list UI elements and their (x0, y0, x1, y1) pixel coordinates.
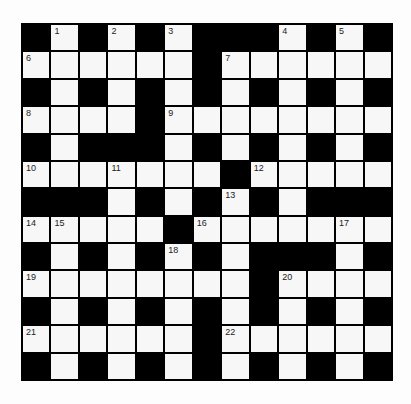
crossword-cell[interactable] (308, 107, 334, 132)
crossword-cell[interactable]: 21 (23, 326, 49, 351)
crossword-cell[interactable] (165, 189, 191, 214)
crossword-cell[interactable] (365, 162, 391, 187)
crossword-cell[interactable] (108, 107, 134, 132)
crossword-cell[interactable] (308, 52, 334, 77)
crossword-cell[interactable]: 2 (108, 25, 134, 50)
crossword-cell[interactable]: 10 (23, 162, 49, 187)
crossword-cell[interactable]: 7 (222, 52, 248, 77)
crossword-cell[interactable] (80, 162, 106, 187)
crossword-cell[interactable] (279, 326, 305, 351)
crossword-cell[interactable] (165, 162, 191, 187)
crossword-cell[interactable] (108, 80, 134, 105)
crossword-cell[interactable] (165, 135, 191, 160)
crossword-cell[interactable] (51, 271, 77, 296)
crossword-cell[interactable] (137, 162, 163, 187)
crossword-cell[interactable] (51, 354, 77, 379)
crossword-cell[interactable] (108, 217, 134, 242)
crossword-cell[interactable] (279, 299, 305, 324)
crossword-cell[interactable] (80, 326, 106, 351)
crossword-cell[interactable] (51, 326, 77, 351)
crossword-cell[interactable] (365, 326, 391, 351)
crossword-cell[interactable] (336, 354, 362, 379)
crossword-cell[interactable] (108, 326, 134, 351)
crossword-cell[interactable] (80, 52, 106, 77)
crossword-cell[interactable]: 22 (222, 326, 248, 351)
crossword-cell[interactable] (137, 217, 163, 242)
crossword-cell[interactable] (222, 135, 248, 160)
crossword-cell[interactable] (251, 217, 277, 242)
crossword-cell[interactable] (336, 326, 362, 351)
crossword-cell[interactable]: 9 (165, 107, 191, 132)
crossword-cell[interactable]: 3 (165, 25, 191, 50)
crossword-cell[interactable] (108, 189, 134, 214)
crossword-cell[interactable] (365, 217, 391, 242)
crossword-cell[interactable] (336, 244, 362, 269)
crossword-cell[interactable] (279, 135, 305, 160)
crossword-cell[interactable] (51, 80, 77, 105)
crossword-cell[interactable] (222, 107, 248, 132)
crossword-cell[interactable] (108, 52, 134, 77)
crossword-cell[interactable]: 17 (336, 217, 362, 242)
crossword-cell[interactable] (108, 354, 134, 379)
crossword-cell[interactable] (222, 299, 248, 324)
crossword-cell[interactable]: 1 (51, 25, 77, 50)
crossword-cell[interactable] (279, 52, 305, 77)
crossword-cell[interactable]: 6 (23, 52, 49, 77)
crossword-cell[interactable] (51, 135, 77, 160)
crossword-cell[interactable] (308, 217, 334, 242)
crossword-cell[interactable] (336, 107, 362, 132)
crossword-cell[interactable] (165, 299, 191, 324)
crossword-cell[interactable]: 14 (23, 217, 49, 242)
crossword-cell[interactable] (279, 189, 305, 214)
crossword-cell[interactable] (165, 326, 191, 351)
crossword-cell[interactable] (251, 52, 277, 77)
crossword-cell[interactable] (251, 107, 277, 132)
crossword-cell[interactable]: 4 (279, 25, 305, 50)
crossword-cell[interactable] (51, 244, 77, 269)
crossword-cell[interactable] (165, 80, 191, 105)
crossword-cell[interactable] (336, 52, 362, 77)
crossword-cell[interactable] (222, 217, 248, 242)
crossword-cell[interactable]: 18 (165, 244, 191, 269)
crossword-cell[interactable] (165, 52, 191, 77)
crossword-cell[interactable]: 13 (222, 189, 248, 214)
crossword-cell[interactable] (308, 326, 334, 351)
crossword-cell[interactable]: 11 (108, 162, 134, 187)
crossword-cell[interactable] (308, 271, 334, 296)
crossword-cell[interactable] (194, 162, 220, 187)
crossword-cell[interactable]: 20 (279, 271, 305, 296)
crossword-cell[interactable] (80, 107, 106, 132)
crossword-cell[interactable] (51, 52, 77, 77)
crossword-cell[interactable] (279, 354, 305, 379)
crossword-cell[interactable] (308, 162, 334, 187)
crossword-cell[interactable] (336, 80, 362, 105)
crossword-cell[interactable] (137, 326, 163, 351)
crossword-cell[interactable]: 15 (51, 217, 77, 242)
crossword-cell[interactable] (336, 162, 362, 187)
crossword-cell[interactable] (137, 52, 163, 77)
crossword-cell[interactable] (365, 271, 391, 296)
crossword-cell[interactable] (336, 271, 362, 296)
crossword-cell[interactable] (251, 326, 277, 351)
crossword-cell[interactable] (194, 271, 220, 296)
crossword-cell[interactable] (165, 271, 191, 296)
crossword-cell[interactable]: 16 (194, 217, 220, 242)
crossword-cell[interactable] (80, 271, 106, 296)
crossword-cell[interactable] (80, 217, 106, 242)
crossword-cell[interactable] (365, 107, 391, 132)
crossword-cell[interactable] (165, 354, 191, 379)
crossword-cell[interactable] (194, 107, 220, 132)
crossword-cell[interactable] (51, 299, 77, 324)
crossword-cell[interactable] (279, 162, 305, 187)
crossword-cell[interactable] (108, 299, 134, 324)
crossword-cell[interactable] (279, 80, 305, 105)
crossword-cell[interactable]: 5 (336, 25, 362, 50)
crossword-cell[interactable] (222, 244, 248, 269)
crossword-cell[interactable] (108, 271, 134, 296)
crossword-cell[interactable] (137, 271, 163, 296)
crossword-cell[interactable]: 12 (251, 162, 277, 187)
crossword-cell[interactable] (279, 107, 305, 132)
crossword-cell[interactable] (336, 135, 362, 160)
crossword-cell[interactable] (51, 162, 77, 187)
crossword-cell[interactable]: 19 (23, 271, 49, 296)
